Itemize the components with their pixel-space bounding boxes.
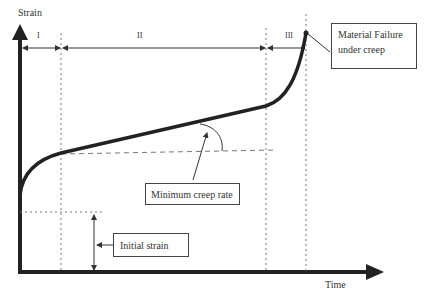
- creep-curve: [20, 33, 306, 195]
- stage-label-3: III: [285, 31, 293, 40]
- min-creep-baseline: [61, 150, 275, 154]
- min-creep-rate-box: Minimum creep rate: [145, 183, 240, 205]
- initial-strain-box: Initial strain: [113, 233, 189, 257]
- failure-line-2: under creep: [338, 42, 410, 57]
- min-creep-pointer: [193, 133, 207, 180]
- x-axis: [18, 264, 384, 280]
- stage-label-2: II: [137, 31, 142, 40]
- failure-pointer: [308, 34, 330, 52]
- stage-label-1: I: [37, 31, 40, 40]
- y-axis: [12, 24, 28, 272]
- failure-annotation-box: Material Failure under creep: [331, 23, 417, 69]
- failure-line-1: Material Failure: [338, 27, 410, 42]
- y-axis-label: Strain: [18, 7, 42, 18]
- x-axis-label: Time: [325, 279, 346, 290]
